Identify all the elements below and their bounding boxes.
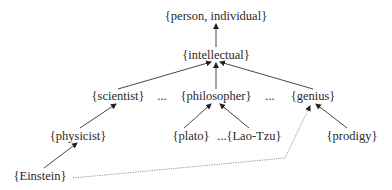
edge-physicist-scientist: [80, 104, 116, 128]
node-physicist: {physicist}: [50, 130, 106, 143]
edge-prodigy-genius: [316, 104, 347, 128]
ellipsis-1: ...: [157, 90, 166, 103]
node-scientist: {scientist}: [92, 90, 145, 103]
node-prodigy: {prodigy}: [327, 130, 378, 143]
edge-laotzu-philosopher: [220, 104, 249, 128]
node-lao-tzu: {Lao-Tzu}: [226, 130, 281, 143]
node-philosopher: {philosopher}: [180, 90, 251, 103]
node-intellectual: {intellectual}: [182, 49, 250, 62]
edge-plato-philosopher: [184, 104, 211, 128]
edge-scientist-intellectual: [118, 62, 211, 89]
node-plato: {plato}: [173, 130, 210, 143]
node-genius: {genius}: [291, 90, 336, 103]
edge-einstein-physicist: [44, 143, 77, 168]
node-person-individual: {person, individual}: [165, 10, 267, 23]
ellipsis-3: ...: [217, 130, 226, 143]
hierarchy-diagram: {person, individual} {intellectual} {sci…: [0, 0, 392, 190]
edge-genius-intellectual: [220, 62, 313, 89]
node-einstein: {Einstein}: [14, 170, 67, 183]
ellipsis-2: ...: [265, 90, 274, 103]
